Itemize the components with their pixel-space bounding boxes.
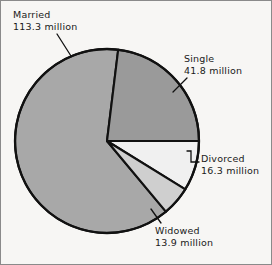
slice-label-single-name: Single — [184, 53, 242, 65]
slice-label-widowed: Widowed 13.9 million — [155, 225, 213, 248]
slice-label-divorced-name: Divorced — [201, 153, 259, 165]
pie-chart-figure: Married 113.3 million Single 41.8 millio… — [0, 0, 272, 265]
leader-line-married — [57, 34, 71, 56]
slice-label-divorced: Divorced 16.3 million — [201, 153, 259, 176]
slice-label-widowed-value: 13.9 million — [155, 237, 213, 249]
slice-label-single-value: 41.8 million — [184, 65, 242, 77]
slice-label-widowed-name: Widowed — [155, 225, 213, 237]
pie-chart-svg — [1, 1, 272, 265]
slice-label-divorced-value: 16.3 million — [201, 165, 259, 177]
slice-label-married: Married 113.3 million — [13, 9, 77, 32]
slice-label-married-value: 113.3 million — [13, 21, 77, 33]
slice-label-single: Single 41.8 million — [184, 53, 242, 76]
slice-label-married-name: Married — [13, 9, 77, 21]
